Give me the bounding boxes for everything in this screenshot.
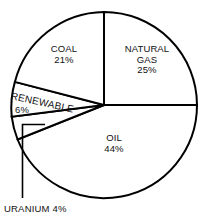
pie-label-uranium-callout: URANIUM 4% [4, 203, 67, 214]
pie-slices [11, 12, 197, 198]
pie-slice-natural-gas[interactable] [104, 12, 197, 105]
pie-chart-svg [0, 0, 202, 220]
pie-chart: COAL 21% NATURAL GAS 25% OIL 44% RENEWAB… [0, 0, 202, 220]
